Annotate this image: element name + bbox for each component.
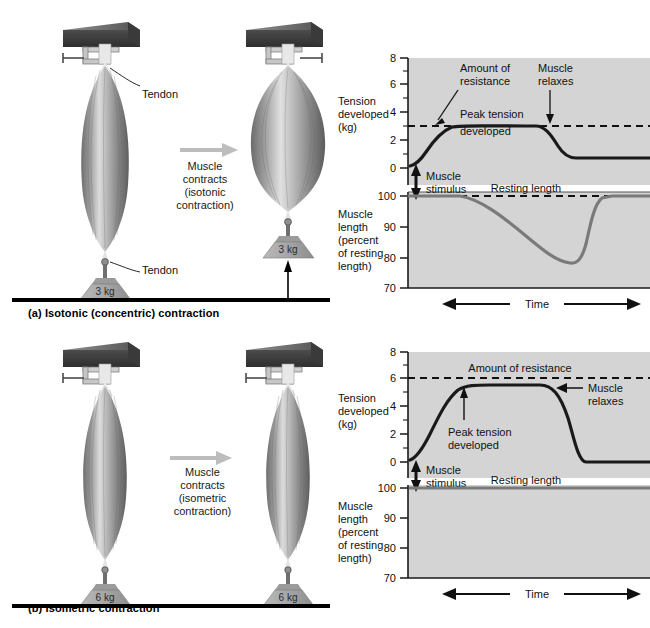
tension-tick-8-b: 8 [390, 346, 396, 358]
tension-tick-6-b: 6 [390, 372, 396, 384]
transition-label-isometric: Muscle contracts (isometric contraction) [150, 466, 255, 518]
tension-axis-title-1: Tension [338, 95, 376, 107]
anno-peak-line2: developed [460, 125, 511, 137]
anno-resistance-b: Amount of resistance [468, 362, 571, 374]
transition-b-line-4: contraction) [150, 505, 255, 518]
weight-right-label-b: 6 kg [279, 592, 298, 603]
transition-arrow-isometric [170, 451, 232, 465]
weight-right-label: 3 kg [279, 244, 298, 255]
transition-line-2: contracts [155, 173, 255, 186]
mounting-block-right [246, 22, 323, 47]
anno-resting-length: Resting length [491, 182, 561, 194]
tension-axis-title-b3: (kg) [338, 418, 357, 430]
isotonic-chart-svg: 0 2 4 6 8 100 90 80 70 Tension developed… [330, 0, 650, 320]
transition-b-line-2: contracts [150, 479, 255, 492]
tendon-label-top: Tendon [142, 88, 178, 100]
panel-isometric: 6 kg [0, 330, 650, 628]
transition-b-line-3: (isometric [150, 492, 255, 505]
length-axis-title-b5: length) [338, 552, 372, 564]
tension-plot-background [408, 58, 650, 185]
length-plot-background-b [408, 485, 650, 578]
transition-line-4: contraction) [155, 199, 255, 212]
anno-peak-b-line2: developed [448, 439, 499, 451]
tension-tick-6: 6 [390, 78, 396, 90]
length-tick-90-b: 90 [384, 512, 396, 524]
anno-peak-b-line1: Peak tension [448, 426, 512, 438]
anno-relax-b-line1: Muscle [588, 382, 623, 394]
length-axis-title-b1: Muscle [338, 500, 373, 512]
length-axis-title-b3: (percent [338, 526, 378, 538]
weight-left-label: 3 kg [96, 286, 115, 297]
mounting-block-left [63, 22, 140, 47]
weight-left-isotonic: 3 kg [80, 278, 131, 300]
time-label-a: Time [525, 298, 549, 310]
length-axis-title-5: length) [338, 260, 372, 272]
tension-axis-title-b1: Tension [338, 392, 376, 404]
tension-axis-title-b2: developed [338, 405, 389, 417]
length-tick-100: 100 [378, 190, 396, 202]
relaxed-muscle-assembly: 3 kg [63, 22, 140, 300]
time-label-b: Time [525, 588, 549, 600]
caption-panel-a: (a) Isotonic (concentric) contraction [28, 307, 219, 319]
length-axis-title-3: (percent [338, 234, 378, 246]
anno-resistance-line1: Amount of [460, 62, 511, 74]
isotonic-illustration: 3 kg [0, 0, 340, 330]
time-axis-b: Time [442, 584, 641, 602]
length-tick-100-b: 100 [378, 482, 396, 494]
anno-relax-line2: relaxes [538, 75, 574, 87]
anno-stimulus-line1: Muscle [426, 170, 461, 182]
tension-tick-4-b: 4 [390, 400, 396, 412]
tension-major-ticks [400, 58, 408, 168]
tension-tick-0-b: 0 [390, 456, 396, 468]
transition-arrow-isotonic [180, 143, 238, 157]
tension-tick-2-b: 2 [390, 428, 396, 440]
isometric-illustration: 6 kg [0, 330, 340, 628]
transition-b-line-1: Muscle [150, 466, 255, 479]
length-axis-title-4: of resting [338, 247, 383, 259]
tension-axis-title-3: (kg) [338, 121, 357, 133]
weight-right-isotonic: 3 kg [263, 236, 314, 258]
tension-tick-8: 8 [390, 52, 396, 64]
anno-peak-line1: Peak tension [460, 108, 524, 120]
isometric-chart-svg: 0 2 4 6 8 100 90 80 70 Tension developed… [330, 330, 650, 620]
length-axis-title-1: Muscle [338, 208, 373, 220]
isotonic-charts: 0 2 4 6 8 100 90 80 70 Tension developed… [330, 0, 650, 330]
length-axis-title-b4: of resting [338, 539, 383, 551]
tension-major-ticks-b [400, 352, 408, 462]
transition-label-isotonic: Muscle contracts (isotonic contraction) [155, 160, 255, 212]
muscle-belly-relaxed [81, 66, 129, 252]
length-tick-80: 80 [384, 252, 396, 264]
length-major-ticks [400, 196, 408, 288]
tendon-label-bottom: Tendon [142, 264, 178, 276]
time-axis-a: Time [442, 294, 641, 312]
length-axis-title-b2: length [338, 513, 368, 525]
mounting-block-b-left [63, 342, 140, 367]
contracted-muscle-assembly: 3 kg [246, 22, 325, 258]
length-tick-70: 70 [384, 282, 396, 294]
tension-tick-4: 4 [390, 106, 396, 118]
isometric-charts: 0 2 4 6 8 100 90 80 70 Tension developed… [330, 330, 650, 628]
anno-relax-b-line2: relaxes [588, 395, 624, 407]
tension-tick-0: 0 [390, 162, 396, 174]
isometric-muscle-right: 6 kg [246, 342, 323, 606]
tension-axis-title-2: developed [338, 108, 389, 120]
length-tick-70-b: 70 [384, 572, 396, 584]
lift-arrow [284, 260, 292, 300]
length-tick-90: 90 [384, 221, 396, 233]
anno-resistance-line2: resistance [460, 75, 510, 87]
length-major-ticks-b [400, 488, 408, 578]
mounting-block-b-right [246, 342, 323, 367]
tension-tick-2: 2 [390, 134, 396, 146]
anno-stimulus-b-line1: Muscle [426, 464, 461, 476]
transition-line-1: Muscle [155, 160, 255, 173]
anno-resting-length-b: Resting length [491, 474, 561, 486]
length-tick-80-b: 80 [384, 542, 396, 554]
caption-panel-b: (b) Isometric contraction [28, 602, 159, 614]
length-axis-title-2: length [338, 221, 368, 233]
transition-line-3: (isotonic [155, 186, 255, 199]
panel-isotonic: 3 kg [0, 0, 650, 330]
anno-relax-line1: Muscle [538, 62, 573, 74]
isometric-muscle-left: 6 kg [63, 342, 140, 606]
anno-stimulus-line2: stimulus [426, 183, 467, 195]
weight-right-isometric: 6 kg [263, 584, 314, 606]
